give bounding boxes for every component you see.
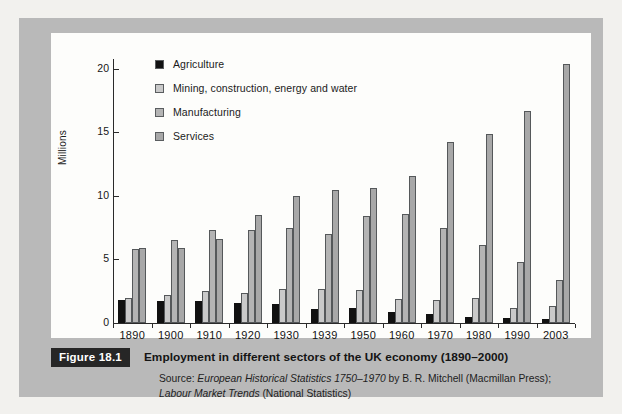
caption-heading-row: Figure 18.1 Employment in different sect…	[51, 348, 591, 367]
figure-title: Employment in different sectors of the U…	[144, 348, 508, 365]
bar-services-1920	[255, 215, 262, 323]
x-axis-tick	[537, 324, 538, 328]
bar-mining-1939	[318, 289, 325, 323]
bar-mining-2003	[549, 306, 556, 323]
x-axis-tick	[306, 324, 307, 328]
bar-services-1960	[409, 176, 416, 323]
x-axis-label-1920: 1920	[229, 329, 268, 341]
bar-agriculture-1910	[195, 301, 202, 323]
legend-item-agriculture: Agriculture	[155, 53, 485, 75]
legend-item-mining: Mining, construction, energy and water	[155, 77, 485, 99]
bar-manufacturing-1890	[132, 249, 139, 323]
x-axis-tick	[421, 324, 422, 328]
figure-caption: Figure 18.1 Employment in different sect…	[51, 348, 591, 401]
bar-agriculture-1930	[272, 304, 279, 323]
source-title-2: Labour Market Trends	[159, 388, 260, 399]
bar-mining-1980	[472, 298, 479, 323]
bar-manufacturing-1980	[479, 245, 486, 323]
legend-label-mining: Mining, construction, energy and water	[173, 82, 357, 94]
source-rest-2: (National Statistics)	[260, 388, 352, 399]
bar-services-1970	[447, 142, 454, 323]
bar-manufacturing-1939	[325, 234, 332, 323]
figure-number-badge: Figure 18.1	[51, 348, 130, 367]
x-axis-tick	[152, 324, 153, 328]
bar-mining-1890	[125, 298, 132, 323]
bar-agriculture-2003	[542, 319, 549, 323]
bar-agriculture-1970	[426, 314, 433, 323]
bar-services-1900	[178, 248, 185, 323]
y-axis-tick	[114, 323, 119, 324]
bar-agriculture-1920	[234, 303, 241, 323]
bar-manufacturing-1910	[209, 230, 216, 323]
x-axis-tick	[113, 324, 114, 328]
bar-agriculture-1939	[311, 309, 318, 323]
x-axis-label-1890: 1890	[113, 329, 152, 341]
x-axis-label-1980: 1980	[460, 329, 499, 341]
x-axis-tick	[229, 324, 230, 328]
y-axis-tick-label: 15	[67, 126, 109, 137]
bar-services-2003	[563, 64, 570, 323]
chart-panel: Millions 0510152018901900191019201930193…	[51, 33, 591, 338]
bar-mining-1970	[433, 300, 440, 323]
bar-mining-1960	[395, 299, 402, 323]
bar-manufacturing-1950	[363, 216, 370, 323]
bar-mining-1950	[356, 290, 363, 323]
source-prefix: Source:	[159, 373, 197, 384]
bar-agriculture-1980	[465, 317, 472, 323]
bar-mining-1930	[279, 289, 286, 323]
bar-manufacturing-1990	[517, 262, 524, 323]
y-axis-tick-label: 20	[67, 63, 109, 74]
x-axis-label-1910: 1910	[190, 329, 229, 341]
source-line-1: Source: European Historical Statistics 1…	[159, 372, 591, 387]
legend-label-services: Services	[173, 130, 214, 142]
bar-manufacturing-1930	[286, 228, 293, 323]
bar-services-1990	[524, 111, 531, 323]
chart-legend: Agriculture Mining, construction, energy…	[155, 53, 485, 149]
y-axis-tick	[114, 69, 119, 70]
bar-services-1980	[486, 134, 493, 323]
y-axis-tick-label: 5	[67, 253, 109, 264]
y-axis-tick	[114, 196, 119, 197]
y-axis-line	[113, 59, 114, 324]
legend-swatch-agriculture	[155, 60, 164, 69]
bar-services-1950	[370, 188, 377, 323]
source-title-1: European Historical Statistics 1750–1970	[197, 373, 385, 384]
legend-item-services: Services	[155, 125, 485, 147]
bar-mining-1990	[510, 308, 517, 323]
y-axis-tick	[114, 132, 119, 133]
x-axis-tick	[498, 324, 499, 328]
figure-block: Labour markets and industrial relations …	[19, 18, 603, 397]
x-axis-label-1950: 1950	[344, 329, 383, 341]
source-rest-1: by B. R. Mitchell (Macmillan Press);	[386, 373, 551, 384]
bar-services-1890	[139, 248, 146, 323]
y-axis-tick	[114, 259, 119, 260]
legend-item-manufacturing: Manufacturing	[155, 101, 485, 123]
x-axis-label-1939: 1939	[306, 329, 345, 341]
legend-swatch-mining	[155, 84, 164, 93]
bar-manufacturing-1970	[440, 228, 447, 323]
y-axis-tick-label: 0	[67, 317, 109, 328]
x-axis-label-1900: 1900	[152, 329, 191, 341]
bar-mining-1900	[164, 295, 171, 323]
bar-agriculture-1960	[388, 312, 395, 323]
figure-page: Labour markets and industrial relations …	[0, 0, 622, 414]
bar-agriculture-1900	[157, 301, 164, 323]
x-axis-label-2003: 2003	[537, 329, 576, 341]
y-axis-tick-label: 10	[67, 190, 109, 201]
bar-agriculture-1990	[503, 318, 510, 323]
legend-swatch-manufacturing	[155, 108, 164, 117]
bar-mining-1920	[241, 293, 248, 324]
x-axis-label-1930: 1930	[267, 329, 306, 341]
bar-manufacturing-1920	[248, 230, 255, 323]
x-axis-tick	[460, 324, 461, 328]
x-axis-tick	[267, 324, 268, 328]
bar-mining-1910	[202, 291, 209, 323]
legend-label-agriculture: Agriculture	[173, 58, 224, 70]
figure-source: Source: European Historical Statistics 1…	[159, 372, 591, 401]
x-axis-tick	[190, 324, 191, 328]
bar-manufacturing-1960	[402, 214, 409, 323]
bar-manufacturing-1900	[171, 240, 178, 323]
bar-agriculture-1950	[349, 308, 356, 323]
bar-services-1910	[216, 239, 223, 323]
source-line-2: Labour Market Trends (National Statistic…	[159, 387, 591, 402]
